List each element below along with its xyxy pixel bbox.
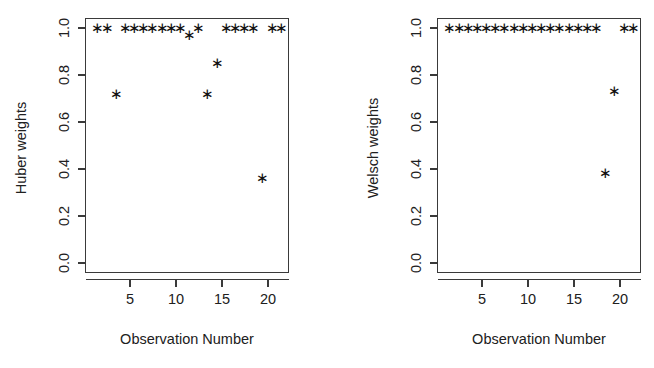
panel-welsch-weights: 1.0 0.8 0.6 0.4 0.2 0.0 5 10 15 20 Welsc… [327,0,654,368]
y-tick-label-0-2: 0.2 [408,206,424,226]
y-tick-label-0-6: 0.6 [56,112,72,132]
x-tick-label-10: 10 [520,291,536,307]
y-tick-label-1-0: 1.0 [56,18,72,38]
data-point-marker: ∗ [275,20,288,36]
y-axis-title-right: Welsch weights [365,98,381,198]
y-tick-label-0-0: 0.0 [56,253,72,273]
data-point-marker: ∗ [201,86,214,102]
x-tick-label-15: 15 [566,291,582,307]
x-tick-label-20: 20 [260,291,276,307]
y-axis-title-left: Huber weights [13,102,29,195]
huber-plot-svg: 1.0 0.8 0.6 0.4 0.2 0.0 5 10 15 20 Huber… [0,0,327,368]
data-point-marker: ∗ [211,55,224,71]
data-point-marker: ∗ [101,20,114,36]
data-point-marker: ∗ [590,20,603,36]
data-point-marker: ∗ [110,86,123,102]
y-tick-label-0-2: 0.2 [56,206,72,226]
y-tick-label-0-0: 0.0 [408,253,424,273]
y-tick-label-0-4: 0.4 [56,159,72,179]
data-point-marker: ∗ [599,165,612,181]
y-tick-label-1-0: 1.0 [408,18,424,38]
y-axis-ticks-right [430,28,438,263]
scatter-plot-figure: 1.0 0.8 0.6 0.4 0.2 0.0 5 10 15 20 Huber… [0,0,654,368]
data-points-right: ∗∗∗∗∗∗∗∗∗∗∗∗∗∗∗∗∗∗∗∗∗ [443,20,639,181]
x-axis-title-right: Observation Number [472,331,606,347]
x-tick-label-20: 20 [612,291,628,307]
x-axis-ticks-left [86,280,289,288]
y-tick-label-0-8: 0.8 [56,65,72,85]
plot-box-frame-right [438,19,641,273]
data-point-marker: ∗ [192,20,205,36]
plot-box-frame-left [86,19,289,273]
data-points-left: ∗∗∗∗∗∗∗∗∗∗∗∗∗∗∗∗∗∗∗∗∗ [91,20,287,186]
welsch-plot-svg: 1.0 0.8 0.6 0.4 0.2 0.0 5 10 15 20 Welsc… [327,0,654,368]
data-point-marker: ∗ [627,20,640,36]
data-point-marker: ∗ [608,83,621,99]
x-axis-title-left: Observation Number [120,331,254,347]
x-tick-label-5: 5 [478,291,486,307]
y-tick-label-0-8: 0.8 [408,65,424,85]
x-tick-label-10: 10 [168,291,184,307]
x-tick-label-5: 5 [126,291,134,307]
x-tick-label-15: 15 [214,291,230,307]
y-axis-ticks-left [78,28,86,263]
data-point-marker: ∗ [256,170,269,186]
y-tick-label-0-4: 0.4 [408,159,424,179]
data-point-marker: ∗ [247,20,260,36]
panel-huber-weights: 1.0 0.8 0.6 0.4 0.2 0.0 5 10 15 20 Huber… [0,0,327,368]
y-tick-label-0-6: 0.6 [408,112,424,132]
x-axis-ticks-right [438,280,641,288]
